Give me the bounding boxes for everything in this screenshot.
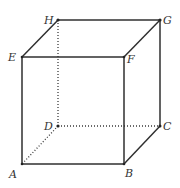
edge-GF: [124, 20, 160, 57]
vertex-dot-B: [123, 163, 126, 166]
edge-CB: [124, 126, 160, 164]
label-E: E: [7, 51, 16, 64]
vertex-dot-D: [56, 124, 59, 127]
cube-diagram: A B C D E F G H: [0, 0, 180, 188]
vertex-dot-C: [159, 125, 162, 128]
label-B: B: [124, 167, 133, 180]
label-H: H: [43, 14, 54, 27]
label-D: D: [43, 120, 53, 133]
vertex-labels: A B C D E F G H: [7, 14, 172, 181]
solid-edges: [22, 20, 160, 164]
vertex-dot-E: [21, 56, 24, 59]
vertex-dot-F: [123, 56, 126, 59]
vertex-dot-A: [21, 163, 24, 166]
label-G: G: [163, 14, 172, 27]
label-C: C: [163, 120, 172, 133]
vertex-dot-G: [158, 18, 161, 21]
vertex-dot-H: [56, 18, 59, 21]
label-F: F: [126, 53, 135, 66]
label-A: A: [8, 168, 17, 181]
